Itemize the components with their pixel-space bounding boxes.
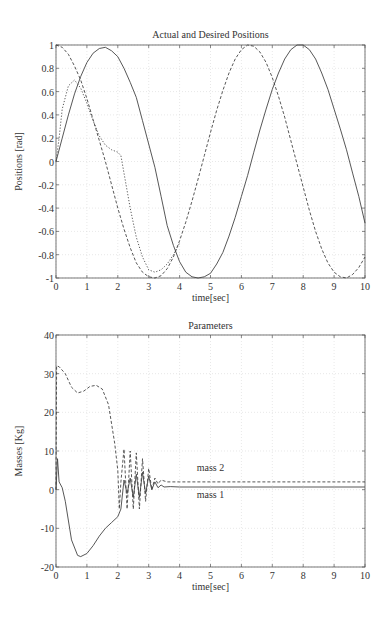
y-tick-label: -0.4 bbox=[38, 203, 54, 214]
y-tick-label: 0.2 bbox=[42, 133, 55, 144]
x-tick-label: 5 bbox=[208, 570, 213, 581]
x-tick-label: 5 bbox=[208, 281, 213, 292]
y-tick-label: 1 bbox=[49, 40, 54, 51]
x-tick-label: 7 bbox=[270, 281, 275, 292]
x-tick-label: 2 bbox=[115, 570, 120, 581]
y-tick-label: 40 bbox=[44, 330, 54, 341]
x-tick-label: 3 bbox=[146, 281, 151, 292]
x-axis-label: time[sec] bbox=[192, 292, 229, 303]
y-tick-label: -0.2 bbox=[38, 180, 54, 191]
x-tick-label: 1 bbox=[84, 570, 89, 581]
y-tick-label: -10 bbox=[41, 523, 54, 534]
annotation-label: mass 2 bbox=[197, 462, 225, 473]
y-axis-label: Masses [Kg] bbox=[13, 426, 24, 477]
y-tick-label: 0.8 bbox=[42, 63, 55, 74]
y-tick-label: -20 bbox=[41, 562, 54, 573]
y-tick-label: 10 bbox=[44, 446, 54, 457]
y-tick-label: 20 bbox=[44, 407, 54, 418]
x-tick-label: 8 bbox=[301, 570, 306, 581]
x-tick-label: 10 bbox=[360, 281, 370, 292]
x-tick-label: 6 bbox=[239, 281, 244, 292]
x-tick-label: 4 bbox=[177, 281, 182, 292]
x-tick-label: 9 bbox=[332, 281, 337, 292]
x-tick-label: 2 bbox=[115, 281, 120, 292]
x-tick-label: 8 bbox=[301, 281, 306, 292]
y-tick-label: 30 bbox=[44, 369, 54, 380]
y-tick-label: 0 bbox=[49, 157, 54, 168]
y-tick-label: 0.4 bbox=[42, 110, 55, 121]
figure: 012345678910-1-0.8-0.6-0.4-0.200.20.40.6… bbox=[0, 0, 391, 622]
x-tick-label: 3 bbox=[146, 570, 151, 581]
y-tick-label: -0.6 bbox=[38, 226, 54, 237]
x-tick-label: 6 bbox=[239, 570, 244, 581]
x-tick-label: 1 bbox=[84, 281, 89, 292]
x-tick-label: 0 bbox=[54, 570, 59, 581]
parameters-chart: 012345678910-20-10010203040time[sec]Mass… bbox=[13, 330, 370, 592]
annotation-label: mass 1 bbox=[197, 489, 225, 500]
y-tick-label: -1 bbox=[46, 273, 54, 284]
x-tick-label: 4 bbox=[177, 570, 182, 581]
x-tick-label: 7 bbox=[270, 570, 275, 581]
y-axis-label: Positions [rad] bbox=[13, 132, 24, 191]
x-axis-label: time[sec] bbox=[192, 581, 229, 592]
positions-chart: 012345678910-1-0.8-0.6-0.4-0.200.20.40.6… bbox=[13, 40, 370, 303]
x-tick-label: 9 bbox=[332, 570, 337, 581]
y-tick-label: 0 bbox=[49, 485, 54, 496]
y-tick-label: 0.6 bbox=[42, 87, 55, 98]
y-tick-label: -0.8 bbox=[38, 250, 54, 261]
x-tick-label: 10 bbox=[360, 570, 370, 581]
x-tick-label: 0 bbox=[54, 281, 59, 292]
